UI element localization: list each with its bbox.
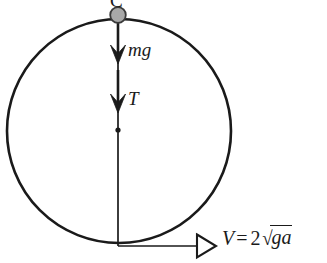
physics-diagram-canvas: C mg T V=2√ga	[0, 0, 327, 263]
velocity-arrow	[118, 235, 216, 258]
square-root-group: √ga	[262, 226, 293, 248]
circle-center-dot	[115, 127, 120, 132]
weight-force-arrow	[111, 22, 126, 64]
label-tension-t: T	[128, 89, 139, 108]
label-weight-mg: mg	[128, 40, 151, 59]
tension-force-arrow	[111, 70, 126, 113]
velocity-symbol: V	[222, 227, 234, 249]
label-point-c: C	[110, 0, 123, 10]
velocity-equation: V=2√ga	[222, 226, 292, 248]
diagram-vector-layer	[0, 0, 327, 263]
equals-sign: =	[236, 227, 247, 249]
velocity-arrow-head	[197, 235, 216, 258]
velocity-coefficient: 2	[251, 227, 261, 249]
radicand-ga: ga	[270, 225, 292, 247]
